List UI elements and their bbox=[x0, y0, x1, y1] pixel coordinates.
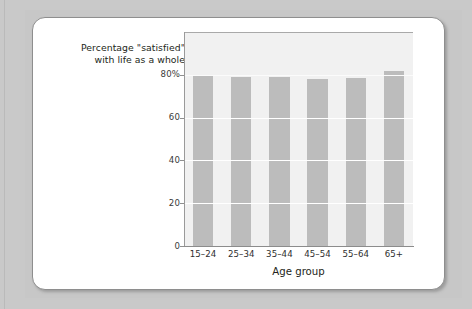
y-tick: 0 bbox=[140, 241, 180, 252]
y-tick-label: 60 bbox=[144, 112, 180, 122]
y-tick-label: 20 bbox=[144, 198, 180, 208]
gridline bbox=[184, 118, 413, 119]
bar bbox=[307, 79, 327, 246]
x-axis-title: Age group bbox=[184, 266, 413, 277]
bar bbox=[269, 77, 289, 246]
chart-title-line-2: with life as a whole bbox=[39, 54, 185, 66]
chart-title: Percentage "satisfied" with life as a wh… bbox=[39, 42, 185, 66]
gridline bbox=[184, 203, 413, 204]
x-tick-label: 15–24 bbox=[184, 249, 222, 259]
y-tick-mark bbox=[180, 118, 184, 119]
y-tick-label: 40 bbox=[144, 155, 180, 165]
bar-chart: Percentage "satisfied" with life as a wh… bbox=[33, 18, 446, 291]
gridline bbox=[184, 75, 413, 76]
x-tick-label: 65+ bbox=[375, 249, 413, 259]
y-tick-mark bbox=[180, 203, 184, 204]
y-axis-line bbox=[184, 32, 185, 246]
figure-card: Percentage "satisfied" with life as a wh… bbox=[32, 17, 445, 290]
x-axis-line bbox=[184, 246, 414, 247]
y-tick: 80% bbox=[140, 69, 180, 80]
bars-layer bbox=[184, 32, 413, 246]
y-tick-label: 0 bbox=[144, 241, 180, 251]
y-tick: 20 bbox=[140, 198, 180, 209]
y-tick-mark bbox=[180, 246, 184, 247]
page-edge-artifact bbox=[4, 0, 5, 309]
y-tick: 40 bbox=[140, 155, 180, 166]
y-tick-mark bbox=[180, 75, 184, 76]
gridline bbox=[184, 160, 413, 161]
x-tick-label: 45–54 bbox=[299, 249, 337, 259]
chart-title-line-1: Percentage "satisfied" bbox=[39, 42, 185, 54]
x-tick-label: 25–34 bbox=[222, 249, 260, 259]
y-tick-label: 80% bbox=[144, 69, 180, 79]
y-tick-mark bbox=[180, 160, 184, 161]
bar bbox=[384, 71, 404, 246]
x-tick-label: 35–44 bbox=[260, 249, 298, 259]
y-tick: 60 bbox=[140, 112, 180, 123]
bar bbox=[231, 77, 251, 246]
bar bbox=[346, 78, 366, 246]
x-tick-label: 55–64 bbox=[337, 249, 375, 259]
